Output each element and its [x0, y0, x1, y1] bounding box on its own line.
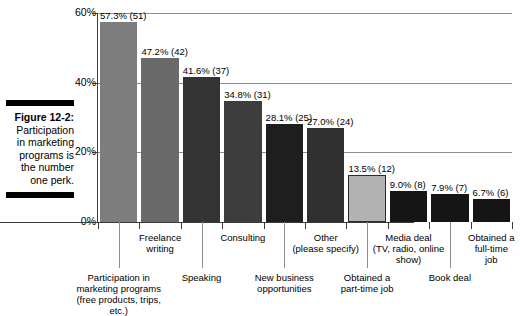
- x-axis-label-line: opportunities: [238, 283, 330, 294]
- bar: [266, 124, 303, 222]
- x-axis-category-label: Other(please specify): [280, 232, 372, 254]
- x-axis-label-line: (TV, radio, online: [363, 243, 455, 254]
- x-axis-label-line: New business: [238, 272, 330, 283]
- x-axis-label-line: Obtained a: [321, 272, 413, 283]
- x-axis-label-line: Speaking: [156, 272, 248, 283]
- bar-value-label: 27.0% (24): [307, 116, 353, 127]
- bar: [141, 58, 178, 222]
- x-axis-tick: [98, 222, 99, 229]
- bar-value-label: 41.6% (37): [183, 65, 229, 76]
- x-axis-tick: [346, 222, 347, 229]
- x-axis-leader-line: [202, 222, 203, 268]
- x-axis-label-line: Participation in: [73, 272, 165, 283]
- x-axis-tick: [512, 222, 513, 229]
- x-axis-label-line: job: [445, 254, 520, 265]
- x-axis-leader-line: [284, 222, 285, 268]
- x-axis-tick: [429, 222, 430, 229]
- bar: [390, 191, 427, 222]
- x-axis-leader-line: [367, 222, 368, 268]
- bar-value-label: 7.9% (7): [431, 182, 467, 193]
- x-axis-category-label: Book deal: [404, 272, 496, 283]
- x-axis-label-line: (free products, trips, etc.): [73, 294, 165, 316]
- bar: [431, 194, 468, 222]
- x-axis-line: [0, 222, 414, 223]
- bar-value-label: 28.1% (25): [266, 112, 312, 123]
- bar-value-label: 13.5% (12): [348, 163, 394, 174]
- bar-value-label: 9.0% (8): [390, 179, 426, 190]
- bar: [348, 175, 385, 222]
- x-axis-tick: [222, 222, 223, 229]
- x-axis-tick: [264, 222, 265, 229]
- plot-area: 57.3% (51)47.2% (42)41.6% (37)34.8% (31)…: [98, 13, 512, 222]
- bar-value-label: 57.3% (51): [100, 10, 146, 21]
- bar: [224, 101, 261, 222]
- x-axis-label-line: part-time job: [321, 283, 413, 294]
- y-axis-tick-label: 60%: [62, 6, 96, 18]
- x-axis-category-label: Consulting: [197, 232, 289, 243]
- x-axis-label-line: show): [363, 254, 455, 265]
- x-axis-label-line: full-time: [445, 243, 520, 254]
- gridline-60: [98, 13, 512, 14]
- x-axis-leader-line: [119, 222, 120, 268]
- x-axis-category-label: New businessopportunities: [238, 272, 330, 294]
- x-axis-category-label: Obtained afull-timejob: [445, 232, 520, 265]
- x-axis-category-label: Obtained apart-time job: [321, 272, 413, 294]
- x-axis-category-label: Speaking: [156, 272, 248, 283]
- x-axis-category-label: Freelancewriting: [114, 232, 206, 254]
- x-axis-tick: [181, 222, 182, 229]
- x-axis-tick: [388, 222, 389, 229]
- x-axis-category-label: Media deal(TV, radio, onlineshow): [363, 232, 455, 265]
- y-axis-tick-label: 40%: [62, 76, 96, 88]
- x-axis-label-line: (please specify): [280, 243, 372, 254]
- x-axis-tick: [305, 222, 306, 229]
- bar: [473, 199, 510, 222]
- x-axis-leader-line: [450, 222, 451, 268]
- x-axis-label-line: marketing programs: [73, 283, 165, 294]
- bar: [307, 128, 344, 222]
- x-axis-category-label: Participation inmarketing programs(free …: [73, 272, 165, 316]
- bar-value-label: 34.8% (31): [224, 89, 270, 100]
- x-axis-label-line: Freelance: [114, 232, 206, 243]
- y-axis-tick-label: 0%: [62, 215, 96, 227]
- bar: [100, 22, 137, 222]
- bar-value-label: 6.7% (6): [473, 187, 509, 198]
- x-axis-label-line: Other: [280, 232, 372, 243]
- x-axis-tick: [471, 222, 472, 229]
- x-axis-label-line: writing: [114, 243, 206, 254]
- bar-value-label: 47.2% (42): [141, 46, 187, 57]
- x-axis-tick: [139, 222, 140, 229]
- x-axis-label-line: Obtained a: [445, 232, 520, 243]
- x-axis-label-line: Media deal: [363, 232, 455, 243]
- y-axis-tick-label: 20%: [62, 145, 96, 157]
- bar: [183, 77, 220, 222]
- x-axis-label-line: Consulting: [197, 232, 289, 243]
- x-axis-label-line: Book deal: [404, 272, 496, 283]
- y-axis: 0%20%40%60%: [56, 0, 96, 311]
